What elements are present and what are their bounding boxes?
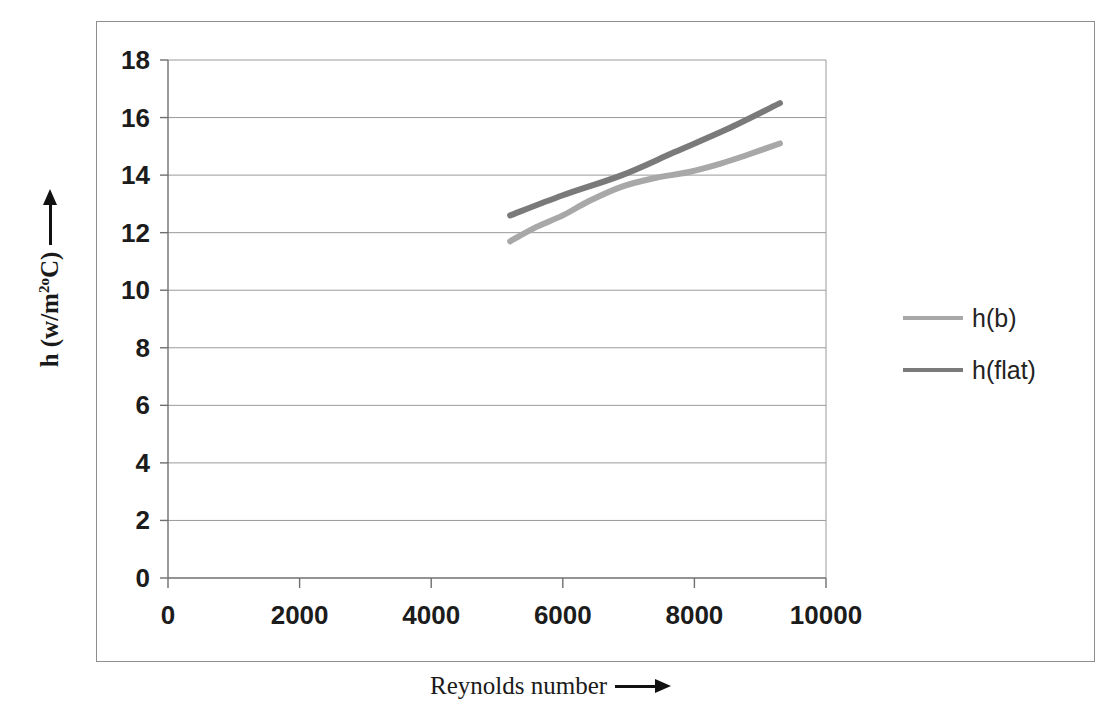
- legend-swatch-h-flat: [903, 368, 963, 372]
- x-tick-label-10000: 10000: [766, 602, 886, 628]
- chart-legend: h(b) h(flat): [903, 292, 1083, 396]
- x-tick-label-0: 0: [108, 602, 228, 628]
- y-tick-label-2: 2: [104, 507, 150, 533]
- y-tick-label-6: 6: [104, 392, 150, 418]
- y-axis-title: h (w/m2oC): [30, 158, 70, 398]
- y-axis-title-text: h (w/m2oC): [36, 252, 64, 368]
- x-tick-label-8000: 8000: [634, 602, 754, 628]
- y-axis-title-superscript: 2o: [36, 278, 52, 293]
- x-tick-label-2000: 2000: [240, 602, 360, 628]
- x-tick-label-6000: 6000: [503, 602, 623, 628]
- legend-label-h-b: h(b): [972, 304, 1016, 333]
- legend-entry-h-b: h(b): [903, 292, 1083, 344]
- y-tick-label-16: 16: [104, 105, 150, 131]
- y-axis-title-suffix: C): [36, 252, 63, 278]
- legend-label-h-flat: h(flat): [972, 356, 1036, 385]
- y-tick-label-0: 0: [104, 565, 150, 591]
- y-tick-label-12: 12: [104, 220, 150, 246]
- x-axis-arrow-icon: [615, 679, 671, 693]
- y-tick-label-14: 14: [104, 162, 150, 188]
- x-axis-title-text: Reynolds number: [430, 672, 607, 700]
- x-axis-title: Reynolds number: [430, 672, 671, 700]
- y-axis-arrow-icon: [43, 189, 57, 245]
- y-tick-label-4: 4: [104, 450, 150, 476]
- x-tick-label-4000: 4000: [371, 602, 491, 628]
- legend-swatch-h-b: [903, 316, 963, 320]
- y-axis-title-prefix: h (w/m: [36, 293, 63, 367]
- legend-entry-h-flat: h(flat): [903, 344, 1083, 396]
- y-tick-label-8: 8: [104, 335, 150, 361]
- y-tick-label-18: 18: [104, 47, 150, 73]
- y-tick-label-10: 10: [104, 277, 150, 303]
